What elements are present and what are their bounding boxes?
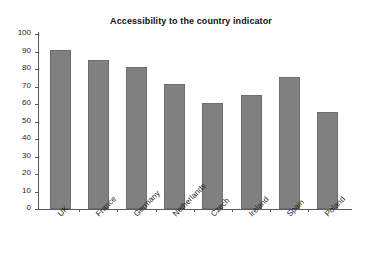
y-axis-tick-label: 20 [22,169,31,177]
bar [202,103,223,209]
bar [126,67,147,209]
plot-area [38,34,352,209]
x-axis-tick-mark [270,209,271,212]
bar [88,60,109,209]
x-axis-tick-mark [79,209,80,212]
x-axis-tick-mark [117,209,118,212]
x-axis-line [38,209,352,210]
y-axis-tick-label: 70 [22,82,31,90]
y-axis-tick-label: 0 [27,204,31,212]
y-axis-tick-label: 40 [22,134,31,142]
y-axis-tick-label: 60 [22,99,31,107]
y-axis-tick-label: 30 [22,152,31,160]
x-axis-tick-mark [232,209,233,212]
bar-chart: Accessibility to the country indicator 0… [0,0,382,261]
bar [50,50,71,209]
y-axis-tick-label: 50 [22,117,31,125]
y-axis-tick-mark [35,209,39,210]
bar [241,95,262,209]
y-axis-tick-label: 80 [22,64,31,72]
y-axis-tick-label: 90 [22,47,31,55]
bar [279,77,300,209]
x-axis-tick-mark [308,209,309,212]
bar [317,112,338,209]
x-axis-tick-mark [156,209,157,212]
x-axis-tick-mark [194,209,195,212]
chart-title: Accessibility to the country indicator [0,16,382,26]
bar [164,84,185,209]
y-axis-tick-label: 100 [18,29,31,37]
y-axis-tick-label: 10 [22,187,31,195]
